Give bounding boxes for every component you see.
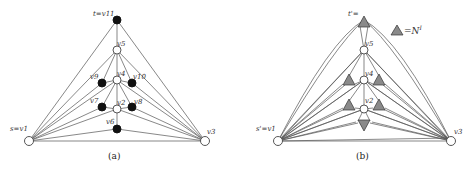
gadget-left-1 — [343, 74, 355, 85]
label-v9: v9 — [90, 73, 99, 81]
node-v1-b — [274, 137, 283, 146]
node-v9 — [98, 79, 106, 87]
node-v3 — [201, 137, 210, 146]
legend-gadget — [391, 25, 403, 35]
label-v5-b: v5 — [365, 40, 374, 48]
node-v6 — [113, 125, 121, 133]
gadget-bottom — [358, 120, 370, 131]
label-v4-b: v4 — [365, 70, 373, 78]
label-v8: v8 — [134, 98, 143, 106]
label-v5: v5 — [117, 40, 126, 48]
gadget-right-1 — [373, 74, 385, 85]
node-v7 — [98, 103, 106, 111]
node-v2-b — [360, 105, 368, 113]
label-v10: v10 — [133, 73, 146, 81]
figure-canvas: t=v11 v5 v4 v9 v10 v7 v2 v8 v6 s=v1 v3 (… — [0, 0, 469, 173]
label-v7: v7 — [90, 97, 99, 105]
label-t-v11: t=v11 — [93, 10, 115, 18]
node-v1 — [25, 137, 34, 146]
label-v2: v2 — [117, 99, 126, 107]
caption-a: (a) — [108, 151, 120, 161]
label-t-prime: t'= — [348, 10, 359, 18]
label-v3: v3 — [207, 128, 216, 136]
gadget-left-2 — [343, 99, 355, 110]
label-v6: v6 — [106, 118, 115, 126]
label-s-prime-v1: s'=v1 — [256, 125, 276, 133]
gadget-right-2 — [373, 99, 385, 110]
legend-N-label: =NI — [404, 24, 422, 36]
label-v3-b: v3 — [454, 128, 463, 136]
gadget-top — [358, 16, 370, 27]
label-v4: v4 — [117, 70, 125, 78]
caption-b: (b) — [356, 151, 369, 161]
node-v3-b — [447, 137, 456, 146]
label-s-v1: s=v1 — [10, 125, 28, 133]
label-v2-b: v2 — [365, 97, 374, 105]
